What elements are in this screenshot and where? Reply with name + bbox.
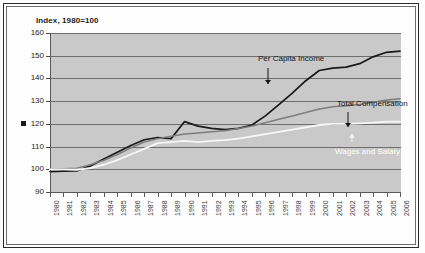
annotation-per-capita-income: Per Capita Income bbox=[258, 54, 324, 63]
x-tick-mark bbox=[319, 193, 320, 197]
x-tick-label: 1992 bbox=[215, 200, 222, 216]
x-tick-mark bbox=[50, 193, 51, 197]
x-tick-label: 1983 bbox=[93, 200, 100, 216]
x-tick-mark bbox=[117, 193, 118, 197]
x-tick-mark bbox=[400, 193, 401, 197]
x-tick-mark bbox=[171, 193, 172, 197]
x-tick-mark bbox=[104, 193, 105, 197]
annotation-wages-and-salary: Wages and Salary bbox=[335, 147, 400, 156]
x-tick-mark bbox=[144, 193, 145, 197]
x-tick-label: 1986 bbox=[134, 200, 141, 216]
x-tick-label: 1981 bbox=[66, 200, 73, 216]
x-tick-mark bbox=[265, 193, 266, 197]
x-tick-label: 1987 bbox=[147, 200, 154, 216]
x-tick-mark bbox=[225, 193, 226, 197]
x-tick-label: 1980 bbox=[53, 200, 60, 216]
x-tick-label: 1989 bbox=[174, 200, 181, 216]
x-tick-mark bbox=[387, 193, 388, 197]
x-tick-mark bbox=[360, 193, 361, 197]
x-tick-mark bbox=[131, 193, 132, 197]
x-tick-mark bbox=[198, 193, 199, 197]
x-tick-label: 2001 bbox=[336, 200, 343, 216]
x-tick-label: 1996 bbox=[268, 200, 275, 216]
x-tick-label: 2000 bbox=[322, 200, 329, 216]
x-tick-label: 1990 bbox=[188, 200, 195, 216]
x-tick-mark bbox=[77, 193, 78, 197]
x-tick-mark bbox=[252, 193, 253, 197]
x-tick-label: 1993 bbox=[228, 200, 235, 216]
chart-figure: Index, 1980=100 16015014013012011010090 … bbox=[0, 0, 425, 253]
x-tick-mark bbox=[292, 193, 293, 197]
x-tick-label: 1991 bbox=[201, 200, 208, 216]
x-tick-mark bbox=[185, 193, 186, 197]
x-tick-label: 1998 bbox=[295, 200, 302, 216]
x-tick-label: 1997 bbox=[282, 200, 289, 216]
x-tick-label: 1988 bbox=[161, 200, 168, 216]
x-tick-mark bbox=[212, 193, 213, 197]
x-tick-mark bbox=[306, 193, 307, 197]
x-tick-mark bbox=[158, 193, 159, 197]
x-tick-mark bbox=[373, 193, 374, 197]
annotation-total-compensation: Total Compensation bbox=[337, 99, 408, 108]
x-tick-mark bbox=[90, 193, 91, 197]
x-tick-label: 2005 bbox=[390, 200, 397, 216]
x-tick-label: 1985 bbox=[120, 200, 127, 216]
x-tick-label: 2006 bbox=[403, 200, 410, 216]
x-tick-label: 2002 bbox=[349, 200, 356, 216]
x-tick-label: 1995 bbox=[255, 200, 262, 216]
x-tick-label: 1984 bbox=[107, 200, 114, 216]
x-axis-tick-labels: 1980198119821983198419851986198719881989… bbox=[0, 0, 425, 253]
x-tick-mark bbox=[279, 193, 280, 197]
x-tick-label: 2003 bbox=[363, 200, 370, 216]
x-tick-label: 1994 bbox=[241, 200, 248, 216]
x-tick-label: 1982 bbox=[80, 200, 87, 216]
x-tick-label: 2004 bbox=[376, 200, 383, 216]
x-tick-mark bbox=[346, 193, 347, 197]
x-tick-mark bbox=[333, 193, 334, 197]
x-tick-mark bbox=[238, 193, 239, 197]
x-tick-label: 1999 bbox=[309, 200, 316, 216]
x-tick-mark bbox=[63, 193, 64, 197]
